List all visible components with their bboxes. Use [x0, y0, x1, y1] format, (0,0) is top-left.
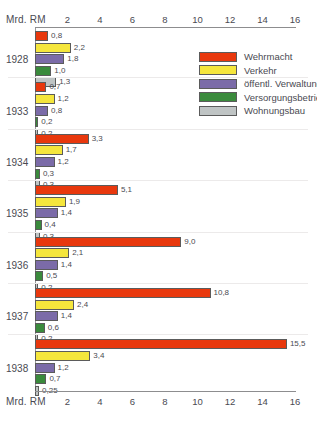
- group-separator: [8, 129, 308, 130]
- bar-chart: Mrd. RM 246810121416 19280,82,21,81,01,3…: [0, 0, 317, 423]
- bar-value-label: 0,4: [42, 220, 56, 230]
- x-tick-label: 16: [290, 396, 301, 407]
- category-label-1928: 1928: [6, 54, 28, 65]
- bar-1936-0[interactable]: [35, 237, 181, 247]
- bar-value-label: 3,3: [89, 134, 103, 144]
- category-label-1937: 1937: [6, 311, 28, 322]
- bar-group: 19343,31,71,20,30,3: [0, 134, 317, 192]
- x-tick-label: 10: [192, 396, 203, 407]
- x-tick-label: 8: [162, 14, 167, 25]
- bar-value-label: 1,9: [66, 197, 80, 207]
- legend-item-4[interactable]: Wohnungsbau: [199, 104, 317, 118]
- group-separator: [8, 232, 308, 233]
- bar-value-label: 0,7: [46, 82, 60, 92]
- legend-swatch: [199, 92, 237, 102]
- x-tick-label: 14: [257, 396, 268, 407]
- bar-1928-0[interactable]: [35, 31, 48, 41]
- category-label-1938: 1938: [6, 363, 28, 374]
- bar-value-label: 3,4: [90, 351, 104, 361]
- bar-value-label: 1,7: [63, 145, 77, 155]
- x-tick-label: 6: [130, 14, 135, 25]
- bar-1934-2[interactable]: [35, 157, 55, 167]
- group-separator: [8, 283, 308, 284]
- bar-1936-3[interactable]: [35, 271, 43, 281]
- bar-value-label: 0,3: [40, 169, 54, 179]
- bar-value-label: 1,4: [58, 208, 72, 218]
- bar-1938-2[interactable]: [35, 363, 55, 373]
- bar-row: 1,7: [35, 145, 296, 155]
- category-label-1935: 1935: [6, 208, 28, 219]
- category-label-1934: 1934: [6, 157, 28, 168]
- legend-item-2[interactable]: öffentl. Verwaltung: [199, 77, 317, 91]
- bar-value-label: 10,8: [211, 288, 230, 298]
- bar-1928-3[interactable]: [35, 66, 51, 76]
- bar-row: 0,8: [35, 31, 296, 41]
- bar-1933-0[interactable]: [35, 82, 46, 92]
- bar-1937-3[interactable]: [35, 323, 45, 333]
- x-tick-label: 2: [65, 396, 70, 407]
- bar-value-label: 1,2: [55, 363, 69, 373]
- bar-row: 0,3: [35, 169, 296, 179]
- bar-1935-0[interactable]: [35, 185, 118, 195]
- bar-group: 19369,02,11,40,50,2: [0, 237, 317, 295]
- bar-group: 193710,82,41,40,60,2: [0, 288, 317, 346]
- bar-row: 1,2: [35, 157, 296, 167]
- legend-label: öffentl. Verwaltung: [244, 77, 317, 90]
- bar-1933-2[interactable]: [35, 106, 48, 116]
- bar-value-label: 0,6: [45, 323, 59, 333]
- legend-label: Verkehr: [244, 64, 277, 77]
- bar-row: 9,0: [35, 237, 296, 247]
- x-tick-label: 6: [130, 396, 135, 407]
- bar-row: 0,4: [35, 220, 296, 230]
- bar-1938-3[interactable]: [35, 374, 46, 384]
- bar-group: 19355,11,91,40,40,3: [0, 185, 317, 243]
- bar-value-label: 9,0: [181, 237, 195, 247]
- bar-value-label: 1,2: [55, 94, 69, 104]
- x-tick-label: 14: [257, 14, 268, 25]
- category-label-1933: 1933: [6, 106, 28, 117]
- legend-item-1[interactable]: Verkehr: [199, 64, 317, 78]
- legend-label: Versorgungsbetriebe: [244, 91, 317, 104]
- bar-row: 1,4: [35, 208, 296, 218]
- bar-row: 5,1: [35, 185, 296, 195]
- bar-row: 0,7: [35, 374, 296, 384]
- x-tick-label: 10: [192, 14, 203, 25]
- bar-1934-0[interactable]: [35, 134, 89, 144]
- x-tick-label: 8: [162, 396, 167, 407]
- x-tick-label: 4: [97, 396, 102, 407]
- bar-1937-2[interactable]: [35, 311, 58, 321]
- group-separator: [8, 180, 308, 181]
- bar-row: 0,2: [35, 117, 296, 127]
- bar-1935-2[interactable]: [35, 208, 58, 218]
- bar-1937-1[interactable]: [35, 300, 74, 310]
- bar-value-label: 2,1: [69, 248, 83, 258]
- chart-legend: WehrmachtVerkehröffentl. VerwaltungVerso…: [199, 50, 317, 118]
- legend-label: Wohnungsbau: [244, 104, 305, 117]
- bar-row: 1,4: [35, 311, 296, 321]
- bar-row: 10,8: [35, 288, 296, 298]
- legend-label: Wehrmacht: [244, 50, 292, 63]
- bar-1938-1[interactable]: [35, 351, 90, 361]
- bar-1936-1[interactable]: [35, 248, 69, 258]
- bar-value-label: 1,2: [55, 157, 69, 167]
- bar-value-label: 1,4: [58, 311, 72, 321]
- axis-line-bottom: [35, 391, 296, 392]
- bar-1933-1[interactable]: [35, 94, 55, 104]
- bar-1935-1[interactable]: [35, 197, 66, 207]
- bar-1938-0[interactable]: [35, 339, 287, 349]
- legend-item-0[interactable]: Wehrmacht: [199, 50, 317, 64]
- bar-group: 193815,53,41,20,70,25: [0, 339, 317, 397]
- axis-caption-bottom: Mrd. RM: [6, 396, 46, 407]
- legend-item-3[interactable]: Versorgungsbetriebe: [199, 91, 317, 105]
- bar-1936-2[interactable]: [35, 260, 58, 270]
- group-separator: [8, 334, 308, 335]
- bar-1937-0[interactable]: [35, 288, 211, 298]
- bar-1928-2[interactable]: [35, 54, 64, 64]
- legend-swatch: [199, 106, 237, 116]
- bar-value-label: 0,2: [38, 117, 52, 127]
- bar-value-label: 5,1: [118, 185, 132, 195]
- bar-1934-1[interactable]: [35, 145, 63, 155]
- bar-1928-1[interactable]: [35, 43, 71, 53]
- x-tick-label: 12: [225, 396, 236, 407]
- bar-row: 2,1: [35, 248, 296, 258]
